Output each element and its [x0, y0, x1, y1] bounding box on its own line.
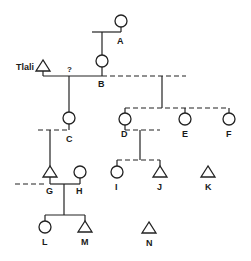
node-a: A: [115, 15, 127, 46]
male-triangle-icon: [78, 221, 92, 232]
female-circle-icon: [119, 113, 131, 125]
node-c: C: [63, 112, 75, 144]
female-circle-icon: [179, 113, 191, 125]
label-b: B: [98, 79, 105, 89]
female-circle-icon: [111, 166, 123, 178]
label-g: G: [46, 186, 53, 196]
female-circle-icon: [63, 112, 75, 124]
uncertain-marker: ?: [67, 65, 72, 74]
male-triangle-icon: [142, 222, 156, 233]
female-circle-icon: [96, 55, 108, 67]
label-tlali: Tlali: [16, 62, 34, 72]
label-m: M: [81, 237, 89, 247]
label-j: J: [157, 182, 162, 192]
node-h: H: [74, 166, 86, 196]
node-g: G: [43, 166, 57, 196]
node-m: M: [78, 221, 92, 247]
label-k: K: [205, 182, 212, 192]
label-h: H: [76, 186, 83, 196]
female-circle-icon: [115, 15, 127, 27]
node-n: N: [142, 222, 156, 248]
node-i: I: [111, 166, 123, 192]
label-n: N: [146, 238, 153, 248]
female-circle-icon: [74, 166, 86, 178]
label-i: I: [115, 182, 118, 192]
kinship-diagram: A B Tlali ? C: [0, 0, 251, 261]
node-k: K: [201, 166, 215, 192]
label-l: L: [42, 237, 48, 247]
node-tlali: Tlali: [16, 60, 50, 76]
node-e: E: [179, 113, 191, 139]
node-l: L: [39, 221, 51, 247]
female-circle-icon: [39, 221, 51, 233]
node-f: F: [223, 113, 235, 139]
male-triangle-icon: [153, 166, 167, 177]
male-triangle-icon: [201, 166, 215, 177]
label-f: F: [226, 129, 232, 139]
node-j: J: [153, 166, 167, 192]
label-e: E: [182, 129, 188, 139]
label-a: A: [117, 36, 124, 46]
label-c: C: [66, 134, 73, 144]
node-b: B: [96, 55, 108, 89]
male-triangle-icon: [36, 60, 50, 71]
female-circle-icon: [223, 113, 235, 125]
male-triangle-icon: [43, 166, 57, 177]
